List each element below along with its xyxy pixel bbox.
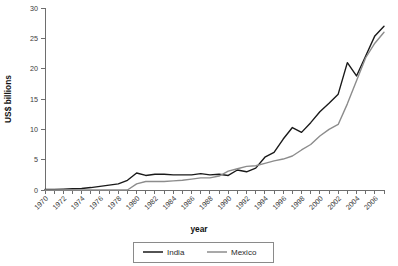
- x-tick-label: 1990: [215, 194, 233, 212]
- x-tick-label: 1976: [87, 194, 105, 212]
- x-tick-label: 1974: [69, 194, 87, 212]
- x-tick-label: 2000: [307, 194, 325, 212]
- x-tick-label: 1986: [179, 194, 197, 212]
- series-line-mexico: [45, 32, 384, 190]
- series-line-india: [45, 26, 384, 189]
- x-tick-label: 2002: [325, 194, 343, 212]
- x-tick-label: 1988: [197, 194, 215, 212]
- chart-canvas: 0510152025301970197219741976197819801982…: [0, 0, 398, 266]
- x-tick-label: 1998: [289, 194, 307, 212]
- legend-label-mexico: Mexico: [231, 248, 257, 257]
- y-tick-label: 20: [30, 64, 38, 73]
- y-tick-label: 25: [30, 34, 38, 43]
- x-tick-label: 2004: [344, 194, 362, 212]
- x-tick-label: 1970: [32, 194, 50, 212]
- y-tick-label: 30: [30, 4, 38, 13]
- x-tick-label: 2006: [362, 194, 380, 212]
- legend-label-india: India: [167, 248, 185, 257]
- x-tick-label: 1994: [252, 194, 270, 212]
- y-tick-label: 5: [34, 155, 38, 164]
- y-tick-label: 10: [30, 125, 38, 134]
- x-tick-label: 1992: [234, 194, 252, 212]
- x-tick-label: 1996: [270, 194, 288, 212]
- y-tick-label: 15: [30, 95, 38, 104]
- x-tick-label: 1972: [51, 194, 69, 212]
- x-axis-title: year: [190, 224, 208, 234]
- y-tick-label: 0: [34, 186, 38, 195]
- x-tick-label: 1982: [142, 194, 160, 212]
- x-tick-label: 1978: [106, 194, 124, 212]
- line-chart: 0510152025301970197219741976197819801982…: [0, 0, 398, 266]
- x-tick-label: 1984: [161, 194, 179, 212]
- x-tick-label: 1980: [124, 194, 142, 212]
- y-axis-title: US$ billions: [3, 75, 13, 123]
